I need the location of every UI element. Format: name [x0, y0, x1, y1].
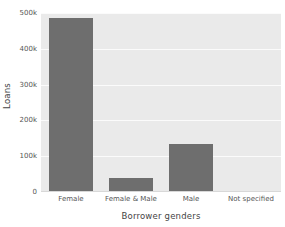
- x-axis-tick-labels: FemaleFemale & MaleMaleNot specified: [41, 195, 281, 209]
- x-tick-label: Male: [183, 195, 200, 203]
- bar[interactable]: [49, 18, 92, 192]
- bar[interactable]: [169, 144, 212, 192]
- y-tick-label: 200k: [20, 116, 37, 124]
- x-tick-label: Female & Male: [105, 195, 157, 203]
- bar-chart-figure: Loans 0100k200k300k400k500k FemaleFemale…: [0, 0, 285, 227]
- y-axis-label-text: Loans: [2, 83, 12, 109]
- bar[interactable]: [109, 178, 152, 192]
- y-tick-label: 300k: [20, 81, 37, 89]
- x-axis-baseline: [41, 191, 281, 192]
- y-axis-label: Loans: [0, 0, 14, 192]
- y-axis-tick-labels: 0100k200k300k400k500k: [14, 0, 39, 200]
- plot-area: [41, 13, 281, 192]
- y-tick-label: 400k: [20, 45, 37, 53]
- x-axis-label: Borrower genders: [41, 211, 281, 221]
- gridline: [41, 13, 281, 14]
- x-tick-label: Female: [58, 195, 83, 203]
- y-tick-label: 500k: [20, 9, 37, 17]
- y-tick-label: 100k: [20, 152, 37, 160]
- y-tick-label: 0: [33, 188, 37, 196]
- x-tick-label: Not specified: [228, 195, 274, 203]
